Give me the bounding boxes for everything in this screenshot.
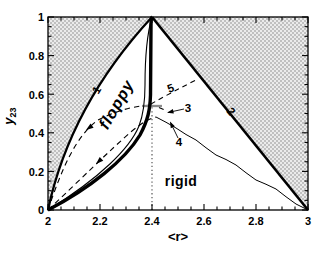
x-tick-label: 2.2	[92, 215, 107, 227]
x-tick-label: 2.6	[196, 215, 211, 227]
curve-label-3: 3	[185, 102, 191, 114]
region-label-rigid: rigid	[165, 173, 197, 189]
phase-diagram-plot: 1 2 3 4 5 floppy rigid 2 2.2 2.4 2.6 2.8…	[0, 0, 320, 260]
x-axis-title: <r>	[168, 229, 189, 244]
curve-label-4: 4	[176, 136, 183, 148]
y-axis-title-sub: 23	[8, 107, 18, 117]
y-tick-label: 0	[38, 204, 44, 216]
x-tick-label: 2.8	[248, 215, 263, 227]
y-tick-label: 0.4	[29, 127, 45, 139]
y-axis-title: y23	[1, 107, 18, 125]
x-tick-label: 2.4	[144, 215, 160, 227]
y-tick-labels: 1 0.8 0.6 0.4 0.2 0	[29, 11, 45, 216]
y-tick-label: 0.6	[29, 89, 44, 101]
y-tick-label: 0.8	[29, 50, 44, 62]
phase-diagram-figure: 1 2 3 4 5 floppy rigid 2 2.2 2.4 2.6 2.8…	[0, 0, 320, 260]
x-tick-label: 2	[45, 215, 51, 227]
y-tick-label: 1	[38, 11, 44, 23]
y-tick-label: 0.2	[29, 166, 44, 178]
x-tick-label: 3	[305, 215, 311, 227]
x-tick-labels: 2 2.2 2.4 2.6 2.8 3	[45, 215, 311, 227]
